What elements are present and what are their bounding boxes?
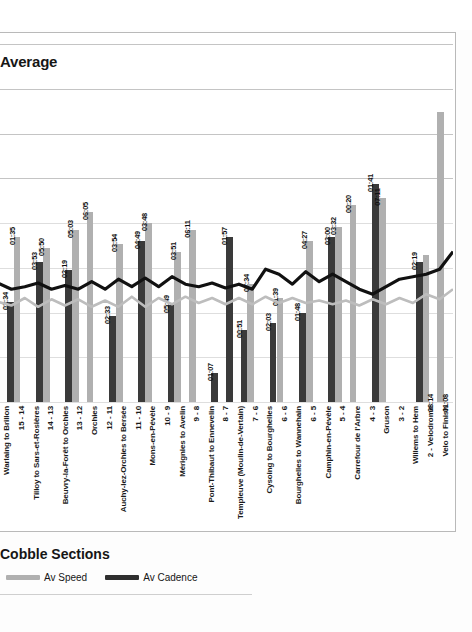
bar-group[interactable]: 07:11 [379, 44, 394, 402]
bar-speed[interactable]: 04:27 [306, 241, 313, 402]
bar-group[interactable]: 01:41 [364, 44, 379, 402]
bar-group[interactable]: 01:35 [14, 44, 29, 402]
bar-group[interactable]: 03:48 [145, 44, 160, 402]
x-axis-cell: 2 - Velodrome [423, 404, 438, 532]
bar-cadence[interactable]: 01:57 [226, 237, 233, 402]
bar-cadence[interactable]: 01:41 [372, 184, 379, 402]
bar-group[interactable]: 06:05 [87, 44, 102, 402]
bar-cadence[interactable]: 02:19 [416, 262, 423, 402]
bar-cadence[interactable]: 02:03 [270, 323, 277, 402]
bar-cadence[interactable]: 01:07 [211, 373, 218, 402]
bar-value-label: 04:27 [300, 231, 309, 249]
bar-value-label: 03:48 [140, 213, 149, 231]
bar-value-label: 00:20 [344, 195, 353, 213]
bar-value-label: 04:49 [133, 231, 142, 249]
bar-group[interactable]: 05:50 [43, 44, 58, 402]
bar-cadence[interactable]: 02:33 [109, 316, 116, 402]
bar-cadence[interactable]: 03:34 [7, 302, 14, 402]
x-axis-cell: 4 - 3 [364, 404, 379, 532]
bar-speed[interactable]: 00:20 [350, 205, 357, 402]
bar-group[interactable]: 05:03 [72, 44, 87, 402]
bar-cadence[interactable]: 03:00 [328, 237, 335, 402]
x-axis-cell: Mons-en-Pévèle [145, 404, 160, 532]
x-axis-cell: 12 - 11 [101, 404, 116, 532]
bar-group[interactable]: 07:34 [247, 44, 262, 402]
bar-speed[interactable]: 05:03 [72, 230, 79, 402]
legend-label-av-cadence: Av Cadence [143, 572, 197, 583]
chart-legend: Av Speed Av Cadence [6, 572, 197, 583]
bar-speed[interactable]: 01:08 [437, 112, 444, 402]
x-axis-cell: 3 - 2 [393, 404, 408, 532]
bar-group[interactable] [393, 44, 408, 402]
bar-group[interactable]: 00:51 [233, 44, 248, 402]
bar-group[interactable]: 01:48 [291, 44, 306, 402]
x-axis-label: 11 - 10 [133, 406, 142, 430]
bar-group[interactable]: 01:07 [204, 44, 219, 402]
bar-speed[interactable]: 07:34 [247, 284, 254, 402]
bar-cadence[interactable]: 05:49 [168, 305, 175, 402]
x-axis-cell: Templeuve (Moulin-de-Vertain) [233, 404, 248, 532]
x-axis-cell: Orchies [87, 404, 102, 532]
x-axis-cell: 14 - 13 [43, 404, 58, 532]
x-axis-label: Orchies [89, 406, 98, 435]
chart-subtitle: Cobble Sections [0, 546, 110, 562]
bar-speed[interactable]: 03:32 [335, 227, 342, 402]
x-axis-label: Cysoing to Bourghelles [265, 406, 274, 494]
x-axis-label: Auchy-lez-Orchies to Bersée [119, 406, 128, 512]
bar-group[interactable]: 04:27 [306, 44, 321, 402]
bar-group[interactable]: 02:03 [262, 44, 277, 402]
bar-speed[interactable]: 03:54 [116, 244, 123, 402]
x-axis-cell: 7 - 6 [247, 404, 262, 532]
bar-speed[interactable]: 06:05 [87, 212, 94, 402]
x-axis-cell: Auchy-lez-Orchies to Bersée [116, 404, 131, 532]
bar-cadence[interactable]: 02:19 [65, 270, 72, 402]
bar-speed[interactable]: 07:11 [379, 198, 386, 402]
bar-cadence[interactable]: 03:53 [36, 262, 43, 402]
bar-speed[interactable]: 08:14 [423, 255, 430, 402]
bar-group[interactable]: 02:33 [101, 44, 116, 402]
bar-group[interactable]: 06:11 [189, 44, 204, 402]
bar-group[interactable]: 05:49 [160, 44, 175, 402]
x-axis-cell: Mérignies to Avelin [174, 404, 189, 532]
bar-speed[interactable]: 01:39 [277, 298, 284, 402]
legend-item-av-cadence[interactable]: Av Cadence [105, 572, 197, 583]
bar-series-container[interactable]: 03:3401:3503:5305:5002:1905:0306:0502:33… [0, 44, 453, 402]
bar-group[interactable]: 03:32 [335, 44, 350, 402]
x-axis-label: Pont-Thibaut to Ennevelin [206, 406, 215, 503]
bar-group[interactable]: 03:54 [116, 44, 131, 402]
x-axis-label: 5 - 4 [338, 406, 347, 422]
bar-value-label: 02:19 [410, 252, 419, 270]
x-axis-label: 2 - Velodrome [425, 406, 434, 457]
legend-label-av-speed: Av Speed [44, 572, 87, 583]
x-axis-label: Bourghelles to Wannehain [294, 406, 303, 504]
bar-value-label: 07:11 [373, 188, 382, 206]
bar-speed[interactable]: 06:11 [189, 230, 196, 402]
bar-cadence[interactable]: 00:51 [241, 330, 248, 402]
bar-group[interactable]: 01:39 [277, 44, 292, 402]
bar-group[interactable]: 08:14 [423, 44, 438, 402]
x-axis-cell: 6 - 5 [306, 404, 321, 532]
x-axis-cell: 10 - 9 [160, 404, 175, 532]
bar-value-label: 02:33 [103, 306, 112, 324]
bar-group[interactable]: 02:19 [408, 44, 423, 402]
bar-speed[interactable]: 03:51 [174, 252, 181, 402]
x-axis-cell: 15 - 14 [14, 404, 29, 532]
bar-group[interactable]: 01:08 [437, 44, 452, 402]
bar-group[interactable]: 01:57 [218, 44, 233, 402]
legend-item-av-speed[interactable]: Av Speed [6, 572, 87, 583]
x-axis-cell: 11 - 10 [130, 404, 145, 532]
bar-group[interactable]: 03:53 [28, 44, 43, 402]
x-axis-cell: 6 - 6 [277, 404, 292, 532]
bar-group[interactable]: 03:34 [0, 44, 14, 402]
bar-cadence[interactable]: 01:48 [299, 313, 306, 403]
bar-value-label: 07:34 [242, 274, 251, 292]
bar-cadence[interactable]: 04:49 [138, 241, 145, 402]
x-axis-label: Velo to Finish [440, 406, 449, 457]
bar-speed[interactable]: 03:48 [145, 223, 152, 402]
x-axis-labels: Warlaing to Brillon15 - 14Tilloy to Sars… [0, 404, 453, 532]
bar-group[interactable]: 00:20 [350, 44, 365, 402]
bar-speed[interactable]: 05:50 [43, 248, 50, 402]
bar-speed[interactable]: 01:35 [14, 237, 21, 402]
x-axis-label: 13 - 12 [75, 406, 84, 430]
x-axis-label: 6 - 5 [309, 406, 318, 422]
